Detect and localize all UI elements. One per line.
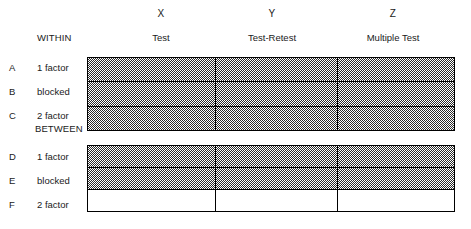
cell-a-z: [338, 58, 454, 81]
cell-b-y: [216, 82, 338, 105]
cell-b-x: [88, 82, 216, 105]
row-letter-e: E: [9, 175, 15, 186]
row-name-a: 1 factor: [37, 62, 69, 73]
row-letter-c: C: [9, 110, 16, 121]
table-row: [88, 146, 454, 168]
row-name-d: 1 factor: [37, 151, 69, 162]
row-letter-b: B: [9, 86, 15, 97]
cell-c-x: [88, 107, 216, 130]
cell-c-y: [216, 107, 338, 130]
section-label-between: BETWEEN: [35, 123, 83, 134]
table-row: [88, 168, 454, 190]
row-letter-a: A: [9, 62, 15, 73]
cell-c-z: [338, 107, 454, 130]
row-name-c: 2 factor: [37, 110, 69, 121]
table-row: [88, 82, 454, 106]
column-symbol-y: Y: [269, 8, 276, 19]
row-name-e: blocked: [37, 175, 70, 186]
within-matrix: [87, 57, 455, 131]
column-symbol-x: X: [158, 8, 165, 19]
design-matrix-figure: X Y Z Test Test-Retest Multiple Test WIT…: [0, 0, 471, 229]
cell-a-y: [216, 58, 338, 81]
cell-e-y: [216, 168, 338, 189]
table-row: [88, 58, 454, 82]
cell-f-z: [338, 190, 454, 211]
cell-b-z: [338, 82, 454, 105]
row-letter-d: D: [9, 151, 16, 162]
column-name-test-retest: Test-Retest: [248, 32, 296, 43]
column-name-test: Test: [152, 32, 169, 43]
between-matrix: [87, 145, 455, 212]
table-row: [88, 107, 454, 130]
cell-d-y: [216, 146, 338, 167]
cell-e-x: [88, 168, 216, 189]
column-name-multiple-test: Multiple Test: [367, 32, 420, 43]
section-label-within: WITHIN: [37, 32, 71, 43]
row-name-b: blocked: [37, 86, 70, 97]
row-letter-f: F: [9, 199, 15, 210]
cell-a-x: [88, 58, 216, 81]
cell-e-z: [338, 168, 454, 189]
cell-f-x: [88, 190, 216, 211]
cell-d-z: [338, 146, 454, 167]
cell-d-x: [88, 146, 216, 167]
table-row: [88, 190, 454, 211]
row-name-f: 2 factor: [37, 199, 69, 210]
column-symbol-z: Z: [390, 8, 396, 19]
cell-f-y: [216, 190, 338, 211]
